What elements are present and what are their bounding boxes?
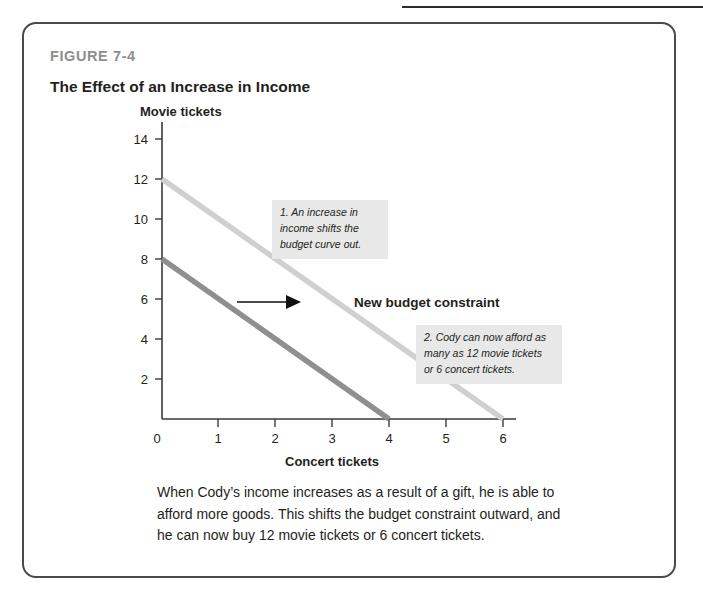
original-budget-constraint-line: [162, 259, 389, 419]
y-tick-label: 2: [141, 372, 148, 387]
y-tick-label: 4: [141, 332, 148, 347]
figure-card: FIGURE 7-4 The Effect of an Increase in …: [22, 22, 676, 578]
figure-caption: When Cody’s income increases as a result…: [157, 482, 567, 547]
y-axis-ticks: [155, 139, 162, 379]
x-axis-tick-labels: 0 1 2 3 4 5 6: [153, 431, 506, 446]
page-header-rule: [402, 6, 703, 8]
x-tick-label: 5: [442, 431, 449, 446]
y-axis-title: Movie tickets: [140, 104, 222, 119]
callout-2-line-3: or 6 concert tickets.: [424, 363, 515, 375]
callout-1: 1. An increase in income shifts the budg…: [272, 200, 388, 259]
x-tick-label: 3: [328, 431, 335, 446]
y-tick-label: 14: [134, 132, 148, 147]
callout-1-line-2: income shifts the: [280, 222, 359, 234]
y-tick-label: 8: [141, 252, 148, 267]
callout-1-line-1: 1. An increase in: [280, 206, 358, 218]
shift-arrow-icon: [237, 295, 301, 309]
x-tick-label: 2: [271, 431, 278, 446]
callout-2-line-2: many as 12 movie tickets: [424, 347, 543, 359]
new-budget-constraint-label: New budget constraint: [354, 295, 500, 310]
x-axis-ticks: [218, 419, 503, 427]
callout-1-line-3: budget curve out.: [280, 238, 361, 250]
x-axis-title: Concert tickets: [285, 454, 379, 469]
x-tick-label: 6: [499, 431, 506, 446]
callout-2: 2. Cody can now afford as many as 12 mov…: [416, 325, 562, 384]
x-tick-label: 4: [385, 431, 392, 446]
y-tick-label: 6: [141, 292, 148, 307]
x-tick-label: 0: [153, 431, 160, 446]
callout-2-line-1: 2. Cody can now afford as: [423, 331, 547, 343]
x-tick-label: 1: [214, 431, 221, 446]
chart-plot-area: Movie tickets 14 12 10 8 6 4 2: [24, 24, 678, 484]
y-tick-label: 10: [134, 212, 148, 227]
y-axis-tick-labels: 14 12 10 8 6 4 2: [134, 132, 148, 387]
y-tick-label: 12: [134, 172, 148, 187]
